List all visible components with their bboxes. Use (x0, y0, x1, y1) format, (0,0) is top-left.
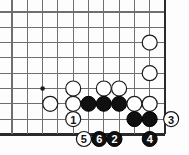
stone-black[interactable] (96, 96, 111, 111)
stone-body (142, 35, 157, 50)
stone-black[interactable] (142, 112, 157, 127)
stone-black[interactable] (127, 112, 142, 127)
hoshi-star-point (40, 86, 45, 91)
stone-body (81, 96, 96, 111)
stone-white[interactable] (127, 96, 142, 111)
stone-body (66, 81, 81, 96)
stone-body (142, 66, 157, 81)
stone-white[interactable] (142, 96, 157, 111)
stone-white[interactable] (96, 81, 111, 96)
move-number-label: 1 (70, 114, 76, 126)
stone-black[interactable] (81, 96, 96, 111)
stone-white[interactable] (142, 35, 157, 50)
move-stone-4[interactable]: 4 (142, 131, 157, 146)
stone-white[interactable] (112, 81, 127, 96)
move-number-label: 3 (168, 114, 174, 126)
stone-black[interactable] (112, 96, 127, 111)
stone-white[interactable] (142, 66, 157, 81)
stone-body (142, 112, 157, 127)
move-stone-2[interactable]: 2 (107, 131, 122, 146)
stone-body (43, 96, 58, 111)
move-stone-1[interactable]: 1 (66, 112, 81, 127)
stone-body (127, 112, 142, 127)
move-stone-6[interactable]: 6 (92, 131, 107, 146)
stones-layer: 135624 (43, 35, 179, 146)
go-board-canvas: 135624 (0, 0, 189, 155)
move-stone-3[interactable]: 3 (164, 112, 179, 127)
move-number-label: 6 (96, 133, 102, 145)
stone-white[interactable] (43, 96, 58, 111)
stone-body (96, 96, 111, 111)
stone-white[interactable] (66, 81, 81, 96)
hoshi-points (40, 86, 45, 91)
move-number-label: 4 (147, 133, 154, 145)
stone-white[interactable] (66, 96, 81, 111)
stone-body (127, 96, 142, 111)
go-board-diagram: 135624 (0, 0, 189, 155)
stone-body (96, 81, 111, 96)
move-number-label: 2 (111, 133, 117, 145)
stone-body (112, 81, 127, 96)
move-stone-5[interactable]: 5 (76, 131, 91, 146)
stone-body (66, 96, 81, 111)
stone-body (112, 96, 127, 111)
stone-body (142, 96, 157, 111)
move-number-label: 5 (81, 133, 87, 145)
